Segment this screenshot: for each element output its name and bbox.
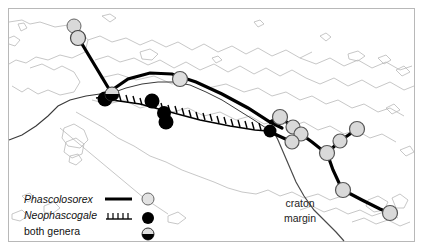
marker-phascolosorex bbox=[336, 183, 351, 198]
marker-phascolosorex bbox=[383, 206, 398, 221]
legend-marker-half-circle bbox=[142, 228, 154, 240]
marker-both-genera bbox=[105, 87, 119, 101]
legend-label-both-genera: both genera bbox=[24, 225, 80, 237]
legend-label-phascolosorex: Phascolosorex bbox=[24, 193, 94, 205]
marker-neophascogale bbox=[145, 94, 160, 109]
marker-phascolosorex bbox=[350, 122, 365, 137]
marker-phascolosorex bbox=[273, 110, 288, 125]
marker-phascolosorex bbox=[285, 135, 299, 149]
marker-phascolosorex bbox=[71, 31, 86, 46]
marker-neophascogale bbox=[159, 115, 174, 130]
craton-margin-label-line1: craton bbox=[285, 197, 314, 209]
craton-margin-label-line2: margin bbox=[284, 212, 316, 224]
legend-marker-open-circle bbox=[142, 193, 154, 205]
marker-neophascogale bbox=[264, 125, 277, 138]
figure-panel: craton margin Phascolosorex Neophascogal… bbox=[0, 0, 424, 251]
marker-phascolosorex bbox=[173, 72, 188, 87]
marker-phascolosorex bbox=[320, 146, 335, 161]
legend-label-neophascogale: Neophascogale bbox=[24, 209, 97, 221]
legend-marker-filled-circle bbox=[142, 212, 154, 224]
map-canvas: craton margin Phascolosorex Neophascogal… bbox=[0, 0, 424, 251]
marker-phascolosorex bbox=[333, 134, 347, 148]
